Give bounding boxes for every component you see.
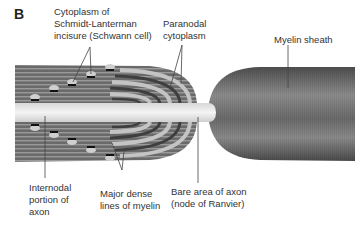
label-major-dense-lines: Major dense lines of myelin (100, 188, 160, 212)
label-schmidt-lanterman: Cytoplasm of Schmidt-Lanterman incisure … (54, 6, 152, 42)
right-myelin-sheath (208, 67, 355, 161)
label-node-of-ranvier: Bare area of axon (node of Ranvier) (171, 186, 247, 210)
label-paranodal-cytoplasm: Paranodal cytoplasm (163, 18, 206, 42)
label-internodal-axon: Internodal portion of axon (29, 182, 71, 218)
label-myelin-sheath: Myelin sheath (274, 34, 333, 46)
